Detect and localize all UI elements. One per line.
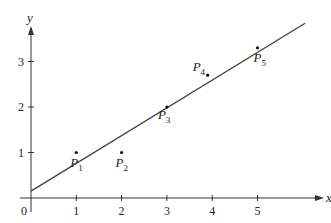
scatter-plot: xy012345123 P1P2P3P4P5 — [0, 0, 331, 223]
x-tick-label: 3 — [164, 204, 170, 218]
x-axis-label: x — [325, 190, 331, 205]
x-tick-label: 5 — [255, 204, 261, 218]
point-label: P4 — [192, 59, 206, 77]
x-tick-label: 0 — [21, 204, 27, 218]
x-tick-label: 2 — [119, 204, 125, 218]
x-tick-label: 4 — [209, 204, 215, 218]
y-axis-arrow-icon — [28, 26, 34, 35]
point-label: P2 — [115, 155, 128, 173]
y-tick-label: 2 — [18, 100, 24, 114]
y-tick-label: 3 — [18, 55, 24, 69]
axes: xy012345123 — [18, 10, 331, 218]
y-tick-label: 1 — [18, 146, 24, 160]
point-label: P5 — [253, 50, 267, 68]
x-tick-label: 1 — [73, 204, 79, 218]
point-label: P3 — [157, 107, 171, 125]
data-point — [206, 74, 209, 77]
point-label: P1 — [69, 155, 82, 173]
x-axis-arrow-icon — [315, 195, 324, 201]
y-axis-label: y — [25, 10, 33, 25]
